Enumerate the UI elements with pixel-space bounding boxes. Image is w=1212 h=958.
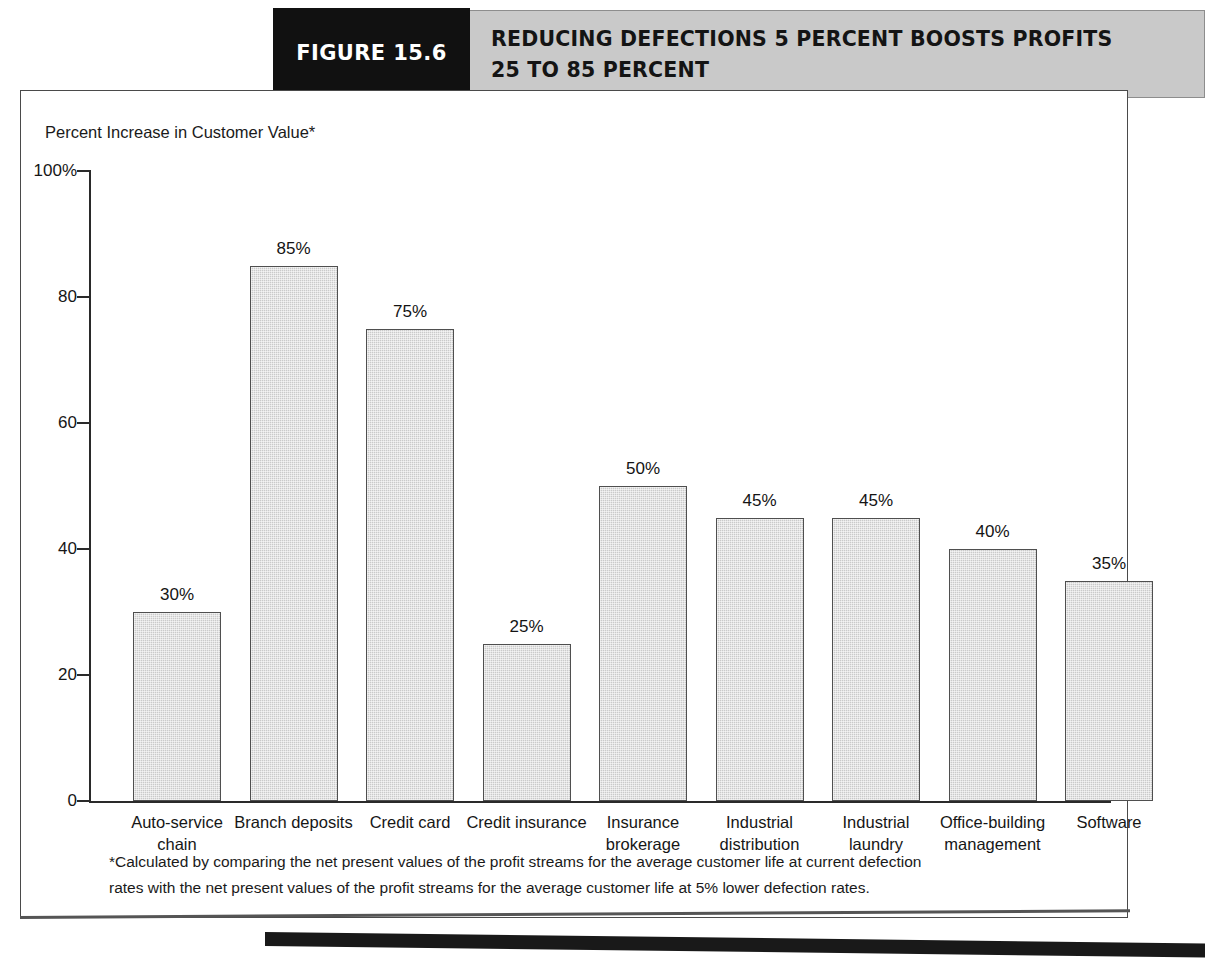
x-axis-line <box>89 801 1111 803</box>
x-axis-category-label: Software <box>1045 811 1173 833</box>
y-axis-tick <box>77 422 91 424</box>
bottom-dark-rule <box>265 932 1205 957</box>
bar-group: 35% <box>1065 171 1153 801</box>
category-label-line: Industrial <box>812 811 940 833</box>
figure-panel: Percent Increase in Customer Value* 0204… <box>20 90 1128 918</box>
bar-group: 45% <box>832 171 920 801</box>
category-label-line: Credit insurance <box>463 811 591 833</box>
bar-group: 30% <box>133 171 221 801</box>
bar-value-label: 40% <box>949 522 1037 542</box>
bar-group: 50% <box>599 171 687 801</box>
figure-title-line-1: REDUCING DEFECTIONS 5 PERCENT BOOSTS PRO… <box>491 24 1181 55</box>
y-axis-tick <box>77 674 91 676</box>
x-axis-category-label: Credit card <box>346 811 474 833</box>
bar-value-label: 75% <box>366 302 454 322</box>
bar <box>1065 581 1153 802</box>
plot-area: 020406080100% 30%85%75%25%50%45%45%40%35… <box>89 171 1109 801</box>
y-axis-tick-label: 40 <box>58 539 77 559</box>
bar <box>483 644 571 802</box>
y-axis-tick-labels: 020406080100% <box>19 171 77 802</box>
footnote: *Calculated by comparing the net present… <box>109 849 1084 901</box>
bar <box>716 518 804 802</box>
bar <box>366 329 454 802</box>
footnote-line-2: rates with the net present values of the… <box>109 875 1084 901</box>
category-label-line: Insurance <box>579 811 707 833</box>
category-label-line: Industrial <box>696 811 824 833</box>
footnote-line-1: *Calculated by comparing the net present… <box>109 849 1084 875</box>
category-label-line: Office-building <box>929 811 1057 833</box>
x-axis-category-label: Credit insurance <box>463 811 591 833</box>
bar-group: 85% <box>250 171 338 801</box>
bar-value-label: 85% <box>250 239 338 259</box>
bar-value-label: 30% <box>133 585 221 605</box>
bar <box>133 612 221 801</box>
y-axis-tick-label: 100% <box>34 161 77 181</box>
x-axis-category-label: Branch deposits <box>230 811 358 833</box>
bar-value-label: 35% <box>1065 554 1153 574</box>
y-axis-tick <box>77 800 91 802</box>
figure-title-line-2: 25 TO 85 PERCENT <box>491 55 1181 86</box>
category-label-line: Credit card <box>346 811 474 833</box>
figure-number-block: FIGURE 15.6 <box>273 8 470 98</box>
figure-title: REDUCING DEFECTIONS 5 PERCENT BOOSTS PRO… <box>491 24 1181 86</box>
y-axis-tick-label: 60 <box>58 413 77 433</box>
y-axis-tick-label: 20 <box>58 665 77 685</box>
y-axis-tick <box>77 548 91 550</box>
bar <box>949 549 1037 801</box>
y-axis-tick <box>77 296 91 298</box>
category-label-line: Software <box>1045 811 1173 833</box>
y-axis-tick-label: 0 <box>68 791 77 811</box>
bar <box>832 518 920 802</box>
bar-value-label: 25% <box>483 617 571 637</box>
y-axis-tick <box>77 170 91 172</box>
bar-value-label: 45% <box>716 491 804 511</box>
figure-number-label: FIGURE 15.6 <box>296 41 447 65</box>
figure-header: FIGURE 15.6 REDUCING DEFECTIONS 5 PERCEN… <box>273 10 1205 98</box>
bar-group: 75% <box>366 171 454 801</box>
bar <box>250 266 338 802</box>
bar-group: 45% <box>716 171 804 801</box>
bar <box>599 486 687 801</box>
bar-value-label: 45% <box>832 491 920 511</box>
bar-group: 25% <box>483 171 571 801</box>
category-label-line: Branch deposits <box>230 811 358 833</box>
bar-value-label: 50% <box>599 459 687 479</box>
bar-chart: Percent Increase in Customer Value* 0204… <box>21 91 1129 919</box>
bar-group: 40% <box>949 171 1037 801</box>
y-axis-tick-label: 80 <box>58 287 77 307</box>
y-axis-line <box>89 171 91 802</box>
y-axis-caption: Percent Increase in Customer Value* <box>45 123 315 142</box>
category-label-line: Auto-service <box>113 811 241 833</box>
